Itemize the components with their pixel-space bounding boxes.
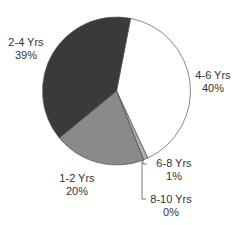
pie-chart (0, 0, 238, 225)
label-1-2-yrs: 1-2 Yrs 20% (57, 172, 97, 198)
label-name: 4-6 Yrs (192, 69, 234, 82)
label-percent: 1% (152, 170, 196, 183)
label-percent: 40% (192, 82, 234, 95)
label-8-10-yrs: 8-10 Yrs 0% (146, 193, 196, 219)
label-name: 2-4 Yrs (6, 36, 46, 49)
label-4-6-yrs: 4-6 Yrs 40% (192, 69, 234, 95)
label-name: 8-10 Yrs (146, 193, 196, 206)
label-name: 1-2 Yrs (57, 172, 97, 185)
pie-slices (42, 17, 190, 165)
label-2-4-yrs: 2-4 Yrs 39% (6, 36, 46, 62)
label-6-8-yrs: 6-8 Yrs 1% (152, 157, 196, 183)
leader-line-6-8 (143, 160, 147, 164)
label-percent: 39% (6, 49, 46, 62)
label-name: 6-8 Yrs (152, 157, 196, 170)
label-percent: 20% (57, 185, 97, 198)
label-percent: 0% (146, 206, 196, 219)
